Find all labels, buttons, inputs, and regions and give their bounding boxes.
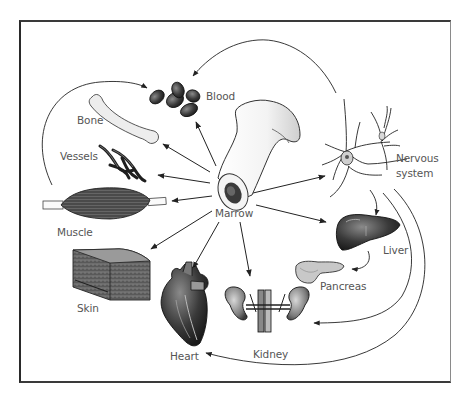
arrow-nervous-liver (370, 190, 377, 215)
label-nervous-line2: system (396, 167, 433, 179)
marrow-bone-illustration (212, 100, 300, 215)
label-marrow: Marrow (215, 207, 253, 219)
diagram-canvas (0, 0, 470, 399)
label-vessels: Vessels (60, 150, 98, 162)
muscle-illustration (43, 188, 166, 219)
arrow-marrow-heart (193, 222, 219, 268)
arrow-marrow-vessels (158, 175, 210, 183)
label-muscle: Muscle (57, 226, 93, 238)
arrow-marrow-bone (163, 144, 210, 172)
arrow-marrow-kidney (240, 222, 250, 276)
arrow-marrow-muscle (172, 196, 212, 201)
neuron-soma (341, 132, 385, 165)
arrow-marrow-blood (196, 122, 216, 166)
label-nervous-line1: Nervous (396, 152, 439, 164)
arrow-marrow-nervous (253, 176, 325, 193)
arrow-marrow-liver (256, 205, 326, 222)
label-bone: Bone (77, 114, 103, 126)
arrow-liver-pancreas (352, 251, 369, 269)
arrow-marrow-skin (151, 211, 212, 249)
heart-illustration (161, 262, 208, 346)
blood-cells-illustration (147, 80, 202, 119)
label-blood: Blood (206, 90, 235, 102)
label-kidney: Kidney (253, 348, 288, 360)
kidney-illustration (225, 287, 309, 332)
label-heart: Heart (170, 350, 199, 362)
label-liver: Liver (383, 244, 408, 256)
label-skin: Skin (77, 302, 99, 314)
arrow-nervous-kidney (314, 193, 412, 323)
arrow-nervous-blood (193, 40, 336, 93)
label-pancreas: Pancreas (320, 280, 366, 292)
nerve-cells-illustration (322, 99, 407, 197)
skin-illustration (73, 249, 150, 300)
